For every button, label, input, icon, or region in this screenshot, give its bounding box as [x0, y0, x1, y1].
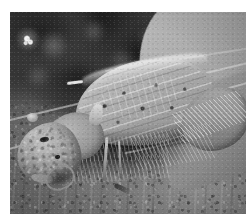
- screenshot-canvas: Close-up grayscale macro photograph of a…: [0, 0, 252, 221]
- ocellus-knob: [27, 113, 38, 122]
- insect-macro-photograph: [10, 12, 246, 214]
- head-highlight: [24, 129, 40, 141]
- specular-highlight: [22, 34, 35, 47]
